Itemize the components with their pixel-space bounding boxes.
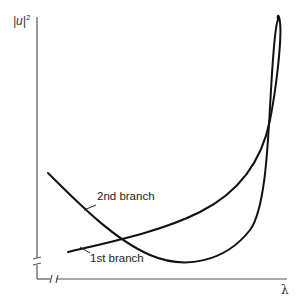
bifurcation-plot (0, 0, 303, 304)
curve-2nd-branch (48, 20, 278, 262)
x-axis-break (50, 275, 58, 283)
label-2nd-branch: 2nd branch (97, 190, 155, 202)
x-axis-label: λ (281, 283, 289, 297)
y-axis-label: |u|2 (13, 13, 30, 28)
axes (33, 17, 287, 283)
y-axis-break (33, 257, 41, 265)
leader-2nd-branch (84, 205, 96, 210)
curve-1st-branch (68, 16, 280, 252)
label-1st-branch: 1st branch (90, 252, 144, 264)
